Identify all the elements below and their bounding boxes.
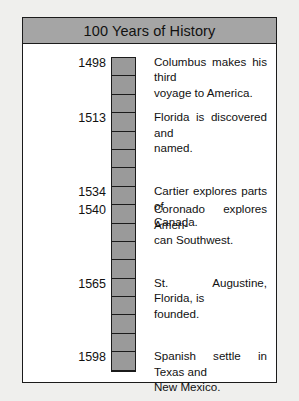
timeline-event-line: voyage to America. <box>154 85 267 100</box>
timeline-year-label: 1540 <box>46 204 106 217</box>
timeline-block <box>112 150 135 168</box>
timeline-year-label: 1498 <box>46 57 106 70</box>
timeline-block <box>112 113 135 131</box>
timeline-event-text: Florida is discovered andnamed. <box>154 109 267 155</box>
timeline-event-line: Columbus makes his third <box>154 54 267 85</box>
timeline-block <box>112 260 135 278</box>
timeline-column: 149815131534154015651598 <box>111 57 136 372</box>
timeline-event-line: St. Augustine, Florida, is <box>154 275 267 306</box>
timeline-event-line: New Mexico. <box>154 379 267 394</box>
timeline-event-line: can Southwest. <box>154 232 267 247</box>
timeline-block <box>112 132 135 150</box>
figure-title-bar: 100 Years of History <box>23 18 276 44</box>
timeline-event-text: St. Augustine, Florida, isfounded. <box>154 275 267 321</box>
timeline-block <box>112 95 135 113</box>
timeline-year-label: 1534 <box>46 186 106 199</box>
timeline-block <box>112 187 135 205</box>
timeline-body: 149815131534154015651598 Columbus makes … <box>23 44 276 382</box>
timeline-event-line: named. <box>154 140 267 155</box>
timeline-year-label: 1565 <box>46 278 106 291</box>
timeline-block <box>112 168 135 186</box>
timeline-block <box>112 224 135 242</box>
timeline-event-text: Spanish settle in Texas andNew Mexico. <box>154 348 267 394</box>
timeline-event-text: Columbus makes his thirdvoyage to Americ… <box>154 54 267 100</box>
timeline-block <box>112 58 135 76</box>
timeline-event-line: Spanish settle in Texas and <box>154 348 267 379</box>
timeline-event-line: founded. <box>154 306 267 321</box>
timeline-block <box>112 76 135 94</box>
timeline-year-label: 1598 <box>46 351 106 364</box>
timeline-figure: 100 Years of History 1498151315341540156… <box>22 17 277 383</box>
timeline-block <box>112 279 135 297</box>
timeline-block <box>112 297 135 315</box>
timeline-event-text: Coronado explores Ameri-can Southwest. <box>154 201 267 247</box>
timeline-block <box>112 205 135 223</box>
timeline-year-label: 1513 <box>46 112 106 125</box>
timeline-block <box>112 334 135 352</box>
timeline-block <box>112 315 135 333</box>
timeline-block <box>112 242 135 260</box>
timeline-event-line: Florida is discovered and <box>154 109 267 140</box>
timeline-block <box>112 352 135 370</box>
timeline-event-line: Coronado explores Ameri- <box>154 201 267 232</box>
page-title: 100 Years of History <box>84 23 216 39</box>
